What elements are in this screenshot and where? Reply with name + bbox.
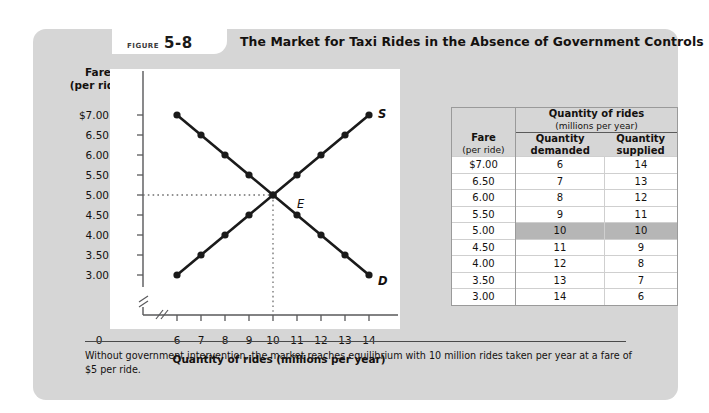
cell-fare: 4.50 [452,239,516,256]
supply-demand-table: Fare (per ride) Quantity of rides (milli… [451,107,678,306]
cell-quantity-demanded: 7 [516,173,605,190]
cell-fare: 3.50 [452,272,516,289]
table-row: 6.00 8 12 [452,190,677,207]
table-header-fare-main: Fare [471,132,496,143]
chart-plot-area [110,69,400,329]
cell-quantity-demanded: 14 [516,289,605,305]
x-tick-label-11: 11 [285,334,309,346]
cell-quantity-supplied: 9 [604,239,677,256]
table-body: $7.00 6 14 6.50 7 13 6.00 8 12 5.50 9 [452,157,677,305]
table-header-demanded-line1: Quantity [536,133,585,144]
y-axis-title-line1: Fare [85,66,111,78]
cell-fare: 6.50 [452,173,516,190]
table-header-quantity-demanded: Quantity demanded [516,133,605,157]
cell-quantity-demanded: 10 [516,223,605,240]
demand-curve-label: D [378,274,388,288]
cell-fare: $7.00 [452,157,516,174]
x-tick-label-12: 12 [309,334,333,346]
x-axis-origin-label: 0 [87,334,111,346]
y-tick-label-3-50: 3.50 [61,249,109,261]
cell-quantity-supplied: 10 [604,223,677,240]
cell-quantity-demanded: 8 [516,190,605,207]
cell-quantity-supplied: 7 [604,272,677,289]
cell-quantity-demanded: 12 [516,256,605,273]
cell-quantity-demanded: 11 [516,239,605,256]
y-axis-ticks [137,115,143,275]
table-row: $7.00 6 14 [452,157,677,174]
cell-fare: 4.00 [452,256,516,273]
table-row: 4.00 12 8 [452,256,677,273]
y-tick-label-5-50: 5.50 [61,169,109,181]
table-header-supplied-line1: Quantity [616,133,665,144]
table-header: Fare (per ride) Quantity of rides (milli… [452,108,677,157]
x-tick-label-9: 9 [237,334,261,346]
cell-quantity-supplied: 12 [604,190,677,207]
cell-quantity-supplied: 8 [604,256,677,273]
table-header-quantity-supplied: Quantity supplied [604,133,677,157]
cell-fare: 6.00 [452,190,516,207]
cell-fare: 3.00 [452,289,516,305]
figure-title: The Market for Taxi Rides in the Absence… [240,34,704,49]
cell-quantity-demanded: 13 [516,272,605,289]
table-header-fare: Fare (per ride) [452,108,516,157]
y-tick-label-6-00: 6.00 [61,149,109,161]
y-tick-label-7-00: $7.00 [61,109,109,121]
table-header-group-sub: (millions per year) [516,120,677,132]
cell-fare: 5.00 [452,223,516,240]
cell-quantity-supplied: 11 [604,206,677,223]
table-header-fare-sub: (per ride) [452,144,515,156]
y-tick-label-4-00: 4.00 [61,229,109,241]
x-tick-label-7: 7 [189,334,213,346]
y-axis-break-mark-2 [139,301,148,307]
table-header-group-main: Quantity of rides [549,108,644,119]
cell-quantity-supplied: 6 [604,289,677,305]
cell-quantity-demanded: 6 [516,157,605,174]
x-tick-label-14: 14 [357,334,381,346]
caption-divider [85,341,626,342]
y-axis-break-mark-1 [139,296,148,302]
table-row: 5.50 9 11 [452,206,677,223]
y-tick-label-3-00: 3.00 [61,269,109,281]
cell-quantity-demanded: 9 [516,206,605,223]
equilibrium-point-label: E [297,197,304,211]
cell-fare: 5.50 [452,206,516,223]
figure-label-word: Figure [127,39,159,50]
y-tick-label-4-50: 4.50 [61,209,109,221]
table-row-equilibrium: 5.00 10 10 [452,223,677,240]
x-tick-label-13: 13 [333,334,357,346]
chart-svg [110,69,400,329]
table-header-demanded-line2: demanded [516,145,604,157]
figure-tab: Figure5-8 [112,29,227,54]
table-header-supplied-line2: supplied [604,145,677,157]
table-row: 4.50 11 9 [452,239,677,256]
x-tick-label-6: 6 [165,334,189,346]
figure-tab-text: Figure5-8 [127,33,193,52]
table-row: 3.50 13 7 [452,272,677,289]
cell-quantity-supplied: 13 [604,173,677,190]
x-tick-label-8: 8 [213,334,237,346]
table-row: 3.00 14 6 [452,289,677,305]
cell-quantity-supplied: 14 [604,157,677,174]
x-tick-label-10: 10 [261,334,285,346]
y-tick-label-6-50: 6.50 [61,129,109,141]
figure-panel: Figure5-8 The Market for Taxi Rides in t… [33,29,678,400]
figure-number: 5-8 [164,34,193,52]
table-row: 6.50 7 13 [452,173,677,190]
table-header-group: Quantity of rides (millions per year) [516,108,678,133]
figure-caption: Without government intervention, the mar… [85,349,637,377]
y-tick-label-5-00: 5.00 [61,189,109,201]
supply-curve-label: S [378,107,386,121]
x-axis-ticks [177,315,369,321]
